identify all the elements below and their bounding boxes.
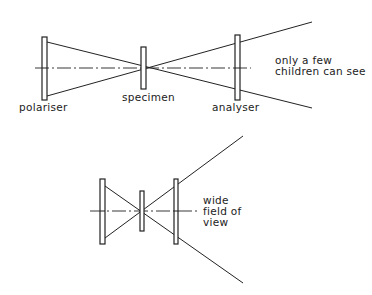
top-ray-upper: [47, 22, 312, 96]
narrow-view-note-line2: children can see: [275, 65, 366, 77]
analyser-label: analyser: [212, 101, 260, 113]
top-ray-lower: [47, 42, 312, 108]
bottom-arrangement: wide field of view: [90, 136, 243, 283]
top-specimen: [141, 47, 146, 89]
top-arrangement: polariser specimen analyser only a few c…: [19, 22, 366, 113]
bottom-specimen: [140, 191, 144, 231]
specimen-label: specimen: [122, 91, 175, 103]
polariser-label: polariser: [19, 101, 68, 113]
polarising-microscope-diagram: polariser specimen analyser only a few c…: [0, 0, 372, 295]
wide-view-note-line3: view: [203, 216, 228, 228]
